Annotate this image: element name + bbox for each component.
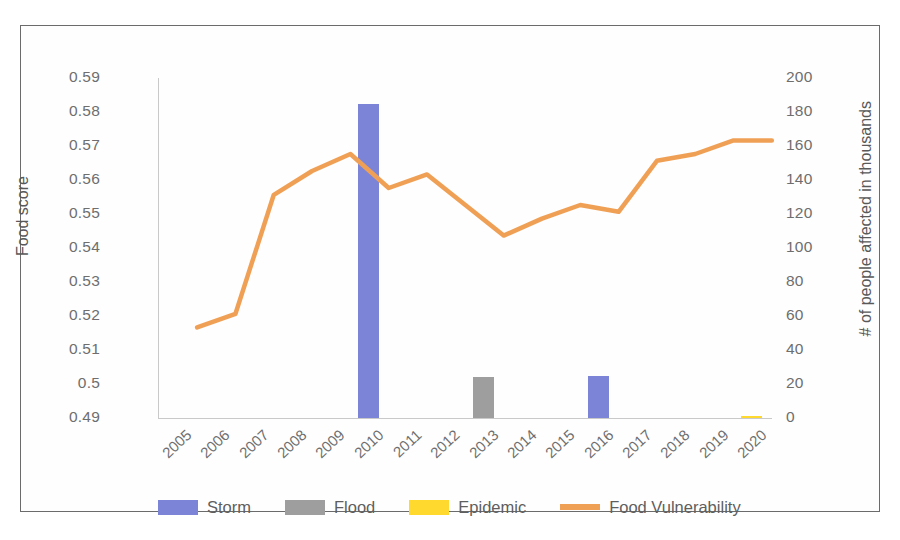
right-axis-tick-label: 200 <box>786 68 812 86</box>
x-axis-tick-label: 2008 <box>262 426 310 473</box>
left-axis-tick-label: 0.51 <box>69 340 100 358</box>
x-axis-tick-label: 2019 <box>683 426 731 473</box>
right-axis-tick-label: 80 <box>786 272 804 290</box>
x-axis-tick-label: 2015 <box>530 426 578 473</box>
right-axis-title: # of people affected in thousands <box>857 101 875 336</box>
x-axis-tick-label: 2009 <box>300 426 348 473</box>
x-axis-tick-label: 2007 <box>223 426 271 473</box>
x-axis-line <box>158 418 772 419</box>
left-axis-tick-label: 0.58 <box>69 102 100 120</box>
x-axis-tick-label: 2013 <box>453 426 501 473</box>
legend-item-epidemic[interactable]: Epidemic <box>409 498 526 517</box>
right-axis-tick-label: 60 <box>786 306 804 324</box>
right-axis-tick-label: 160 <box>786 136 812 154</box>
left-axis-tick-label: 0.49 <box>69 408 100 426</box>
x-axis-tick-label: 2016 <box>568 426 616 473</box>
right-axis-tick-label: 180 <box>786 102 812 120</box>
plot-area <box>158 78 771 418</box>
legend-label: Food Vulnerability <box>609 498 740 517</box>
legend-label: Epidemic <box>458 498 526 517</box>
x-axis-tick-label: 2011 <box>376 426 424 473</box>
right-axis-tick-label: 0 <box>786 408 795 426</box>
bar-epidemic-2020[interactable] <box>741 416 762 418</box>
legend-label: Flood <box>334 498 375 517</box>
left-axis-tick-label: 0.55 <box>69 204 100 222</box>
right-axis-tick-label: 40 <box>786 340 804 358</box>
left-axis-tick-label: 0.54 <box>69 238 100 256</box>
bar-flood-2013[interactable] <box>473 377 494 418</box>
chart-screenshot: Food score # of people affected in thous… <box>0 0 900 540</box>
right-axis-title-text: # of people affected in thousands <box>857 101 875 336</box>
x-axis-tick-label: 2006 <box>185 426 233 473</box>
bar-storm-2010[interactable] <box>358 104 379 419</box>
right-axis-tick-label: 100 <box>786 238 812 256</box>
legend-label: Storm <box>207 498 251 517</box>
legend-swatch-icon <box>285 500 325 515</box>
x-axis-tick-label: 2017 <box>606 426 654 473</box>
right-axis-tick-label: 140 <box>786 170 812 188</box>
x-axis-tick-label: 2012 <box>415 426 463 473</box>
chart-frame: Food score # of people affected in thous… <box>20 25 880 512</box>
legend-item-storm[interactable]: Storm <box>158 498 251 517</box>
chart-legend: StormFloodEpidemicFood Vulnerability <box>158 494 778 520</box>
x-axis-tick-label: 2005 <box>147 426 195 473</box>
left-axis-tick-label: 0.5 <box>78 374 100 392</box>
legend-item-flood[interactable]: Flood <box>285 498 375 517</box>
left-axis-tick-label: 0.53 <box>69 272 100 290</box>
x-axis-tick-label: 2014 <box>491 426 539 473</box>
right-axis-tick-label: 120 <box>786 204 812 222</box>
x-axis-tick-label: 2020 <box>721 426 769 473</box>
left-axis-tick-label: 0.56 <box>69 170 100 188</box>
left-axis-title: Food score <box>14 176 32 256</box>
legend-swatch-icon <box>158 500 198 515</box>
right-axis-tick-label: 20 <box>786 374 804 392</box>
x-axis-tick-label: 2018 <box>645 426 693 473</box>
x-axis-tick-label: 2010 <box>338 426 386 473</box>
left-axis-tick-label: 0.57 <box>69 136 100 154</box>
legend-item-food-vulnerability[interactable]: Food Vulnerability <box>560 498 740 517</box>
legend-swatch-icon <box>409 500 449 515</box>
legend-swatch-icon <box>560 504 600 510</box>
left-axis-tick-label: 0.52 <box>69 306 100 324</box>
bar-storm-2016[interactable] <box>588 376 609 419</box>
left-axis-tick-label: 0.59 <box>69 68 100 86</box>
